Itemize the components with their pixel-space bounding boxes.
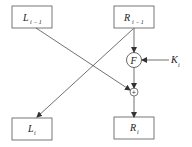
key-sub: i [178,62,180,68]
xor-symbol: + [132,89,136,96]
function-f-node: F [127,53,142,68]
r-prev-sub: i − 1 [132,19,144,25]
l-next-label: L [27,123,34,134]
feistel-diagram: L i − 1 R i − 1 L i R i F + K i [0,0,192,147]
box-l-prev: L i − 1 [12,6,52,28]
arrows [36,28,169,117]
r-next-label: R [129,122,136,133]
r-prev-label: R [123,12,130,23]
xor-node: + [130,88,138,96]
box-l-next: L i [12,118,52,140]
arrow-lprev-to-xor [36,28,130,90]
l-prev-label: L [22,12,29,23]
box-r-next: R i [114,117,154,139]
f-label: F [130,55,138,66]
key-label: K i [170,54,180,68]
arrow-rprev-to-lnext [37,29,133,117]
box-r-prev: R i − 1 [114,6,154,28]
l-prev-sub: i − 1 [30,19,42,25]
